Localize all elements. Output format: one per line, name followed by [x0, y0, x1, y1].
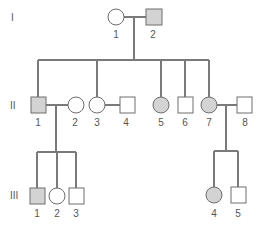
id-label-I1: 1	[113, 29, 119, 40]
individual-II5-female-affected	[153, 97, 169, 113]
id-label-II8: 8	[242, 117, 248, 128]
individual-III3-male-unaffected	[69, 188, 84, 204]
id-label-II2: 2	[72, 117, 78, 128]
generation-label-III: III	[10, 190, 18, 201]
id-label-I2: 2	[150, 29, 156, 40]
id-label-II3: 3	[94, 117, 100, 128]
individual-III5-male-unaffected	[231, 187, 246, 203]
individual-III2-female-unaffected	[49, 188, 65, 204]
id-label-III1: 1	[34, 208, 40, 219]
individual-I1-female-unaffected	[108, 9, 124, 25]
individual-III4-female-affected	[206, 187, 222, 203]
individual-II8-male-unaffected	[237, 97, 252, 113]
id-label-II6: 6	[182, 117, 188, 128]
id-label-II4: 4	[123, 117, 129, 128]
individual-II2-female-unaffected	[68, 97, 84, 113]
individual-II1-male-affected	[31, 97, 46, 113]
id-label-III4: 4	[211, 208, 217, 219]
id-label-II7: 7	[206, 117, 212, 128]
generation-label-II: II	[10, 100, 16, 111]
id-label-III3: 3	[73, 208, 79, 219]
pedigree-chart: I II III 1 2 1 2 3 4	[0, 0, 268, 226]
individual-III1-male-affected	[30, 188, 45, 204]
individual-II6-male-unaffected	[178, 97, 193, 113]
individual-I2-male-affected	[146, 9, 162, 25]
individual-II7-female-affected	[201, 97, 217, 113]
generation-label-I: I	[11, 12, 14, 23]
id-label-II1: 1	[35, 117, 41, 128]
id-label-III5: 5	[235, 208, 241, 219]
id-label-II5: 5	[158, 117, 164, 128]
id-label-III2: 2	[54, 208, 60, 219]
individual-II4-male-unaffected	[120, 97, 135, 113]
individual-II3-female-unaffected	[89, 97, 105, 113]
